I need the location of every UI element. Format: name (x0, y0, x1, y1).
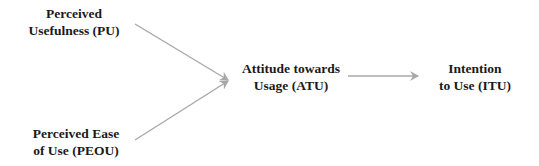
node-label-line: Perceived Ease (28, 125, 124, 142)
node-label-line: to Use (ITU) (430, 77, 520, 94)
node-perceived-usefulness: Perceived Usefulness (PU) (24, 5, 124, 39)
node-label-line: Usefulness (PU) (24, 22, 124, 39)
node-intention-to-use: Intention to Use (ITU) (430, 60, 520, 94)
node-label-line: Attitude towards (236, 60, 346, 77)
node-perceived-ease-of-use: Perceived Ease of Use (PEOU) (28, 125, 124, 159)
arrow-pu-to-atu (135, 24, 228, 80)
node-label-line: Usage (ATU) (236, 77, 346, 94)
node-attitude-towards-usage: Attitude towards Usage (ATU) (236, 60, 346, 94)
node-label-line: of Use (PEOU) (28, 142, 124, 159)
node-label-line: Perceived (24, 5, 124, 22)
arrow-peou-to-atu (135, 81, 228, 140)
node-label-line: Intention (430, 60, 520, 77)
